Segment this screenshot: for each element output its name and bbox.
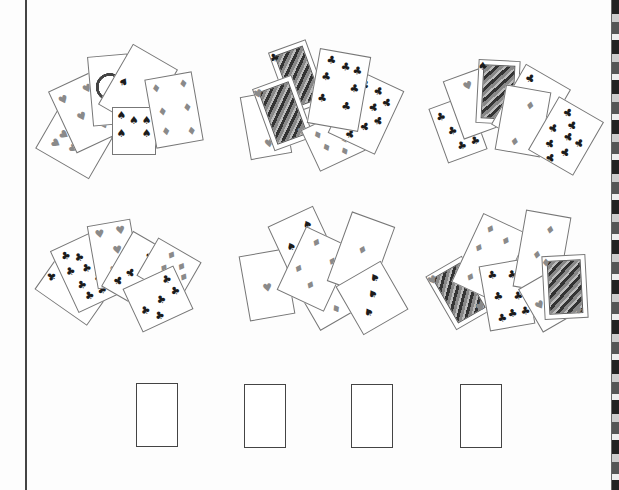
diamond-icon: ♦ <box>464 270 478 284</box>
club-icon: ♣ <box>45 270 60 284</box>
club-icon: ♣ <box>59 249 73 263</box>
spade-icon: ♠ <box>362 305 376 319</box>
diamond-icon: ♦ <box>524 100 536 113</box>
club-icon: ♣ <box>320 70 332 83</box>
diamond-icon: ♦ <box>356 244 369 258</box>
answer-box-2[interactable] <box>244 384 286 448</box>
club-icon: ♣ <box>434 110 447 124</box>
spade-icon: ♠ <box>142 128 152 139</box>
club-icon: ♣ <box>496 312 508 325</box>
spade-icon: ♠ <box>116 109 126 120</box>
spade-icon: ♠ <box>368 270 382 284</box>
answer-box-3[interactable] <box>351 384 393 448</box>
club-icon: ♣ <box>349 83 361 96</box>
club-icon: ♣ <box>446 124 459 138</box>
club-icon: ♣ <box>168 284 182 298</box>
diamond-icon: ♦ <box>311 128 325 142</box>
heart-icon: ♥ <box>115 225 127 238</box>
diamond-icon: ♦ <box>186 125 198 138</box>
diamond-icon: ♦ <box>320 141 334 155</box>
diamond-icon: ♦ <box>303 278 317 292</box>
club-icon: ♣ <box>316 92 328 105</box>
answer-box-4[interactable] <box>460 384 502 448</box>
face-card: ♦♦ <box>541 254 588 320</box>
club-icon: ♣ <box>340 61 352 74</box>
heart-icon: ♥ <box>262 282 274 295</box>
diamond-icon: ♦ <box>509 136 521 149</box>
spade-icon: ♠ <box>116 128 126 139</box>
answer-box-1[interactable] <box>136 383 178 447</box>
diamond-icon: ♦ <box>544 224 556 237</box>
club-icon: ♣ <box>64 265 78 279</box>
spade-icon: ♠ <box>116 75 130 89</box>
left-margin-rule <box>25 0 27 490</box>
club-icon: ♣ <box>358 119 372 133</box>
diamond-icon: ♦ <box>309 236 323 250</box>
heart-icon: ♥ <box>57 93 71 107</box>
club-icon: ♣ <box>486 269 498 282</box>
diamond-icon: ♦ <box>182 101 194 114</box>
club-icon: ♣ <box>572 136 586 150</box>
club-icon: ♣ <box>111 273 125 287</box>
club-icon: ♣ <box>371 114 385 128</box>
club-icon: ♣ <box>543 151 557 165</box>
club-icon: ♣ <box>543 137 557 151</box>
club-icon: ♣ <box>455 139 468 153</box>
club-icon: ♣ <box>326 54 338 67</box>
spade-icon: ♠ <box>366 287 380 301</box>
diamond-icon: ♦ <box>574 304 584 316</box>
diamond-icon: ♦ <box>541 257 551 269</box>
club-icon: ♣ <box>546 121 560 135</box>
diamond-icon: ♦ <box>472 241 486 255</box>
diamond-icon: ♦ <box>483 222 497 236</box>
diamond-icon: ♦ <box>157 106 169 119</box>
club-icon: ♣ <box>507 307 519 320</box>
spade-icon: ♠ <box>477 61 487 73</box>
club-icon: ♣ <box>380 96 394 110</box>
club-icon: ♣ <box>153 309 167 323</box>
spade-icon: ♠ <box>129 114 139 125</box>
scanned-page-edge <box>612 0 619 490</box>
diamond-icon: ♦ <box>150 83 162 96</box>
club-icon: ♣ <box>340 100 352 113</box>
diamond-icon: ♦ <box>292 262 306 276</box>
heart-icon: ♥ <box>94 228 106 241</box>
diamond-icon: ♦ <box>160 126 172 139</box>
diamond-icon: ♦ <box>338 145 352 159</box>
club-icon: ♣ <box>367 101 381 115</box>
heart-icon: ♥ <box>75 110 89 124</box>
diamond-icon: ♦ <box>330 302 344 316</box>
heart-icon: ♥ <box>461 79 474 93</box>
club-icon: ♣ <box>558 146 572 160</box>
diamond-icon: ♦ <box>178 78 190 91</box>
club-icon: ♣ <box>155 293 169 307</box>
club-icon: ♣ <box>352 64 364 77</box>
club-icon: ♣ <box>83 289 97 303</box>
club-icon: ♣ <box>493 290 505 303</box>
diamond-icon: ♦ <box>164 248 178 262</box>
club-icon: ♣ <box>138 303 152 317</box>
club-icon: ♣ <box>523 72 537 86</box>
diamond-icon: ♦ <box>499 234 513 248</box>
